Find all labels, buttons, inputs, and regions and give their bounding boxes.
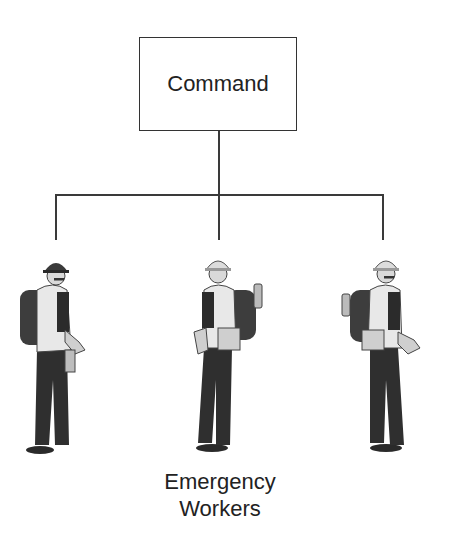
emergency-worker-1-icon — [15, 250, 95, 455]
caption-line-1: Emergency — [120, 468, 320, 495]
emergency-worker-3-icon — [340, 250, 430, 455]
connector-right — [382, 194, 384, 240]
caption-line-2: Workers — [120, 495, 320, 522]
connector-horizontal — [55, 194, 384, 196]
connector-left — [55, 194, 57, 240]
connector-trunk — [218, 131, 220, 240]
command-node: Command — [139, 37, 297, 131]
command-label: Command — [167, 71, 268, 97]
emergency-worker-2-icon — [180, 250, 270, 455]
workers-caption: Emergency Workers — [120, 468, 320, 522]
